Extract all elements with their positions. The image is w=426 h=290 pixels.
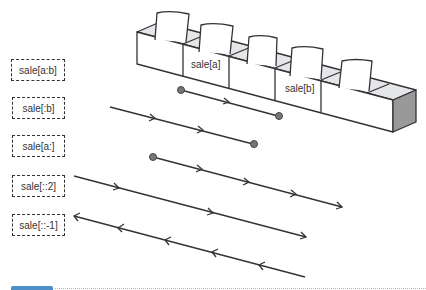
- label-slice-from-a: sale[a:]: [12, 135, 65, 157]
- start-dot-icon: [178, 87, 185, 94]
- end-dot-icon: [276, 113, 283, 120]
- end-dot-icon: [251, 141, 258, 148]
- arrow-slice-reverse: [74, 213, 305, 277]
- footer-tab: [11, 286, 53, 290]
- footer-divider: [55, 288, 426, 289]
- arrow-slice-from-a: [153, 157, 342, 209]
- label-slice-a-b: sale[a:b]: [11, 59, 65, 81]
- label-slice-to-b: sale[:b]: [12, 97, 65, 119]
- box-label-sale-b: sale[b]: [285, 83, 315, 94]
- box-label-sale-a: sale[a]: [191, 59, 221, 70]
- arrow-slice-to-b: [110, 107, 253, 144]
- label-slice-reverse: sale[::-1]: [12, 214, 65, 236]
- start-dot-icon: [150, 154, 157, 161]
- arrow-slice-step-2: [74, 176, 306, 239]
- label-slice-step-2: sale[::2]: [12, 175, 65, 197]
